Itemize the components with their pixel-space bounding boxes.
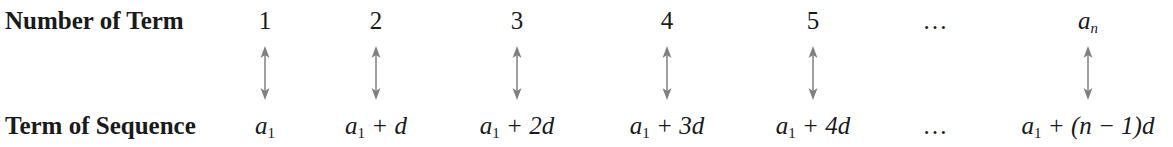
double-arrow-icon bbox=[510, 46, 524, 100]
sequence-term-2: a1 + d bbox=[345, 112, 407, 140]
sequence-term-5: a1 + 4d bbox=[776, 112, 850, 140]
sequence-term-1: a1 bbox=[255, 112, 275, 140]
double-arrow-icon bbox=[369, 46, 383, 100]
term-number-ellipsis: … bbox=[923, 7, 948, 35]
term-number-n: an bbox=[1078, 7, 1098, 35]
sequence-term-ellipsis: … bbox=[923, 112, 948, 140]
term-number-1: 1 bbox=[259, 7, 272, 35]
term-number-2: 2 bbox=[370, 7, 383, 35]
sequence-term-3: a1 + 2d bbox=[480, 112, 554, 140]
double-arrow-icon bbox=[258, 46, 272, 100]
double-arrow-icon bbox=[1081, 46, 1095, 100]
sequence-term-n: a1 + (n − 1)d bbox=[1022, 112, 1155, 140]
term-number-5: 5 bbox=[807, 7, 820, 35]
sequence-term-4: a1 + 3d bbox=[630, 112, 704, 140]
term-number-4: 4 bbox=[661, 7, 674, 35]
double-arrow-icon bbox=[660, 46, 674, 100]
double-arrow-icon bbox=[806, 46, 820, 100]
row-label-number-of-term: Number of Term bbox=[5, 7, 184, 35]
row-label-term-of-sequence: Term of Sequence bbox=[5, 112, 196, 140]
term-number-3: 3 bbox=[511, 7, 524, 35]
